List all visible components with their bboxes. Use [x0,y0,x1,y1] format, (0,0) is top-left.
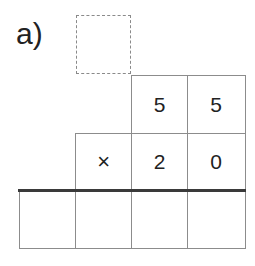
problem-label: a) [16,17,43,51]
operator-cell: × [75,133,133,191]
multiplicand-tens-cell: 5 [131,75,188,134]
result-tens-cell[interactable] [131,190,188,249]
result-hundreds-cell[interactable] [75,190,133,249]
result-ones-cell[interactable] [187,190,246,249]
result-thousands-cell[interactable] [19,190,77,249]
carry-box[interactable] [76,15,131,74]
multiplier-ones-cell: 0 [187,133,246,191]
multiplicand-ones-cell: 5 [187,75,246,134]
sum-rule-line [18,189,246,192]
multiplier-tens-cell: 2 [131,133,188,191]
multiply-sign-icon: × [97,149,110,175]
